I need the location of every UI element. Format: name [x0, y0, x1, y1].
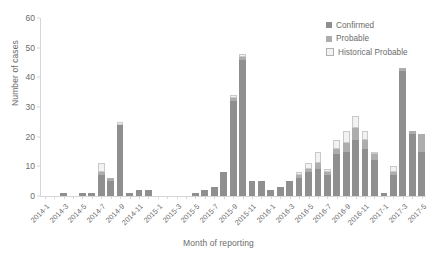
bar-segment-historical-probable	[98, 163, 105, 172]
x-axis-tick-mark	[243, 196, 244, 199]
x-axis-tick-mark	[252, 196, 253, 199]
bar-segment-confirmed	[343, 152, 350, 197]
x-axis-tick-mark	[148, 196, 149, 199]
stacked-bar[interactable]	[315, 152, 322, 196]
legend-item-confirmed[interactable]: Confirmed	[326, 20, 434, 30]
bar-segment-confirmed	[409, 134, 416, 196]
stacked-bar[interactable]	[286, 181, 293, 196]
legend-swatch-icon	[326, 48, 334, 56]
stacked-bar[interactable]	[324, 169, 331, 196]
stacked-bar[interactable]	[230, 95, 237, 196]
x-axis-tick-label: 2016-7	[311, 202, 334, 225]
x-axis-tick-mark	[158, 196, 159, 199]
bar-slot: 2014-3	[59, 18, 68, 196]
x-axis-tick-label: 2016-1	[255, 202, 278, 225]
bar-slot	[125, 18, 134, 196]
x-axis-tick-mark	[82, 196, 83, 199]
bar-segment-confirmed	[98, 175, 105, 196]
bar-segment-historical-probable	[362, 131, 369, 140]
stacked-bar[interactable]	[333, 140, 340, 196]
bar-segment-confirmed	[107, 181, 114, 196]
bar-slot: 2016-3	[285, 18, 294, 196]
stacked-bar[interactable]	[107, 178, 114, 196]
bar-slot	[106, 18, 115, 196]
bar-slot: 2014-7	[97, 18, 106, 196]
x-axis-tick-label: 2016-5	[292, 202, 315, 225]
bar-segment-confirmed	[296, 178, 303, 196]
bar-segment-historical-probable	[352, 116, 359, 128]
x-axis-tick-mark	[356, 196, 357, 199]
x-axis-tick-label: 2016-3	[273, 202, 296, 225]
stacked-bar[interactable]	[296, 172, 303, 196]
bar-slot	[87, 18, 96, 196]
x-axis-tick-mark	[299, 196, 300, 199]
x-axis-tick-label: 2014-7	[85, 202, 108, 225]
x-axis-tick-mark	[101, 196, 102, 199]
legend-item-historical-probable[interactable]: Historical Probable	[326, 47, 434, 57]
x-axis-tick-label: 2015-7	[198, 202, 221, 225]
bar-segment-confirmed	[211, 187, 218, 196]
x-axis-tick-label: 2017-1	[368, 202, 391, 225]
bar-segment-confirmed	[399, 71, 406, 196]
x-axis-tick-mark	[327, 196, 328, 199]
stacked-bar[interactable]	[220, 172, 227, 196]
x-axis-tick-mark	[374, 196, 375, 199]
bar-slot	[144, 18, 153, 196]
stacked-bar[interactable]	[371, 152, 378, 196]
y-axis-tick-label: 60	[26, 13, 35, 23]
stacked-bar[interactable]	[98, 163, 105, 196]
bar-segment-confirmed	[117, 125, 124, 196]
y-axis-tick-label: 50	[26, 43, 35, 53]
stacked-bar[interactable]	[409, 131, 416, 196]
stacked-bar[interactable]	[117, 122, 124, 196]
bar-slot: 2014-11	[134, 18, 143, 196]
bar-segment-confirmed	[258, 181, 265, 196]
x-axis-tick-mark	[224, 196, 225, 199]
stacked-bar[interactable]	[362, 131, 369, 196]
y-axis-title: Number of cases	[10, 17, 24, 129]
bar-slot: 2015-11	[247, 18, 256, 196]
bar-slot: 2014-9	[115, 18, 124, 196]
y-axis-tick-label: 10	[26, 161, 35, 171]
bar-slot: 2014-1	[40, 18, 49, 196]
bar-slot	[276, 18, 285, 196]
stacked-bar[interactable]	[352, 116, 359, 196]
legend-label: Historical Probable	[338, 48, 408, 57]
x-axis-tick-mark	[271, 196, 272, 199]
stacked-bar[interactable]	[390, 166, 397, 196]
x-axis-tick-mark	[403, 196, 404, 199]
stacked-bar[interactable]	[418, 134, 425, 196]
y-axis-tick-label: 20	[26, 132, 35, 142]
x-axis-tick-mark	[337, 196, 338, 199]
stacked-bar[interactable]	[249, 181, 256, 196]
stacked-bar[interactable]	[239, 54, 246, 196]
x-axis-tick-mark	[205, 196, 206, 199]
y-axis-tick-label: 30	[26, 102, 35, 112]
stacked-bar[interactable]	[211, 187, 218, 196]
bar-slot	[219, 18, 228, 196]
y-axis-tick-label: 40	[26, 72, 35, 82]
stacked-bar[interactable]	[258, 181, 265, 196]
x-axis-tick-mark	[120, 196, 121, 199]
x-axis-tick-label: 2014-3	[47, 202, 70, 225]
stacked-bar[interactable]	[343, 131, 350, 196]
stacked-bar[interactable]	[277, 187, 284, 196]
bar-segment-confirmed	[362, 149, 369, 196]
bar-segment-confirmed	[315, 169, 322, 196]
legend-item-probable[interactable]: Probable	[326, 34, 434, 44]
x-axis-tick-mark	[130, 196, 131, 199]
bar-segment-probable	[362, 140, 369, 149]
x-axis-tick-mark	[233, 196, 234, 199]
bar-segment-confirmed	[418, 152, 425, 197]
bar-slot	[68, 18, 77, 196]
bar-slot	[257, 18, 266, 196]
x-axis-tick-mark	[73, 196, 74, 199]
bar-segment-confirmed	[230, 101, 237, 196]
x-axis-tick-mark	[177, 196, 178, 199]
stacked-bar[interactable]	[305, 163, 312, 196]
stacked-bar[interactable]	[399, 68, 406, 196]
bar-slot	[200, 18, 209, 196]
x-axis-tick-mark	[167, 196, 168, 199]
bar-segment-confirmed	[220, 172, 227, 196]
x-axis-tick-mark	[139, 196, 140, 199]
